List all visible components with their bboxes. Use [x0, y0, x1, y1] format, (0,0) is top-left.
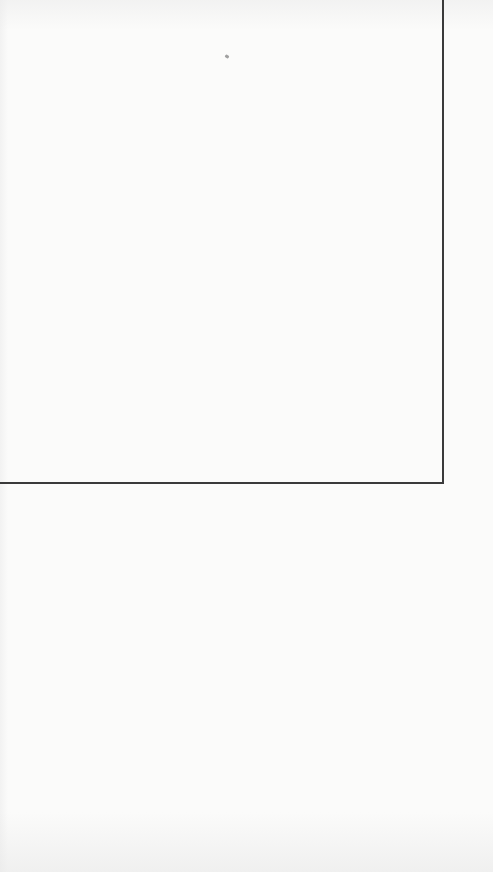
drawn-rectangle-frame: [0, 0, 444, 484]
